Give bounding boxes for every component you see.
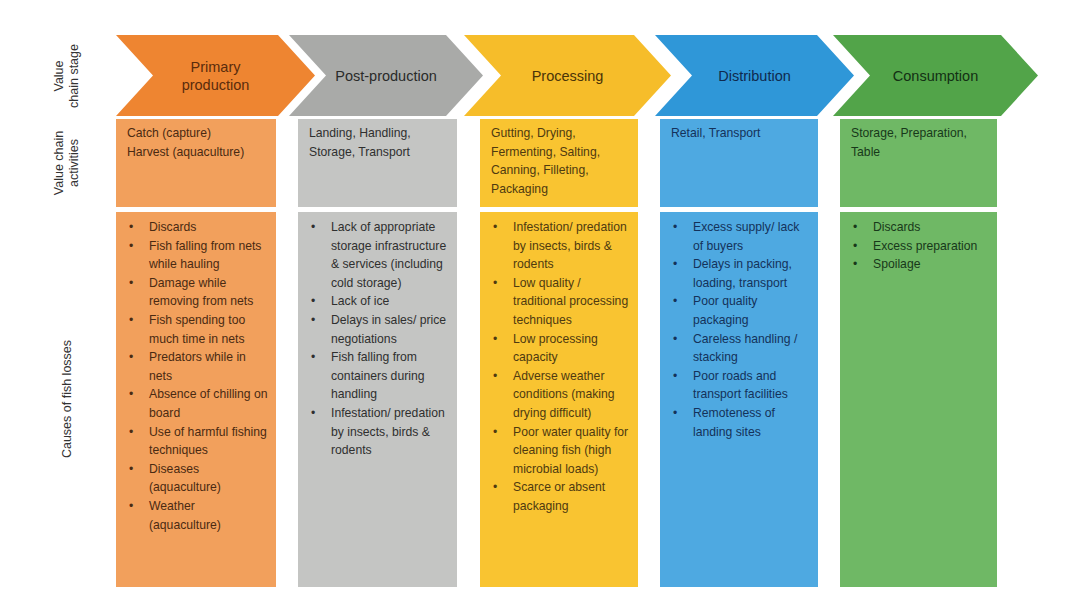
stage-chevron-consumption: Consumption — [833, 35, 1039, 116]
stage-title-line: Processing — [532, 67, 604, 85]
cause-item: Fish spending too much time in nets — [127, 311, 270, 348]
activities-primary-production: Catch (capture) Harvest (aquaculture) — [116, 119, 276, 207]
causes-primary-production: Discards Fish falling from nets while ha… — [116, 212, 276, 587]
causes-distribution: Excess supply/ lack of buyers Delays in … — [660, 212, 818, 587]
cause-item: Predators while in nets — [127, 348, 270, 385]
stage-chevron-primary-production: Primary production — [116, 35, 316, 116]
stage-chevron-distribution: Distribution — [655, 35, 855, 116]
activities-consumption: Storage, Preparation, Table — [840, 119, 997, 207]
stage-title-line: Primary — [182, 58, 250, 76]
cause-item: Absence of chilling on board — [127, 385, 270, 422]
causes-post-production: Lack of appropriate storage infrastructu… — [298, 212, 457, 587]
cause-item: Infestation/ predation by insects, birds… — [491, 218, 632, 274]
row-label-causes: Causes of fish losses — [60, 329, 76, 469]
causes-list: Discards Excess preparation Spoilage — [851, 218, 991, 274]
stage-title: Distribution — [692, 35, 817, 116]
cause-item: Lack of ice — [309, 292, 451, 311]
cause-item: Remoteness of landing sites — [671, 404, 812, 441]
causes-consumption: Discards Excess preparation Spoilage — [840, 212, 997, 587]
row-label-stage-line2: chain stage — [67, 41, 82, 111]
cause-item: Poor roads and transport facilities — [671, 367, 812, 404]
activity-text: Landing, Handling, Storage, Transport — [309, 124, 447, 161]
row-label-activities-line1: Value chain — [52, 123, 67, 203]
cause-item: Excess supply/ lack of buyers — [671, 218, 812, 255]
cause-item: Discards — [851, 218, 991, 237]
causes-list: Lack of appropriate storage infrastructu… — [309, 218, 451, 460]
cause-item: Careless handling / stacking — [671, 330, 812, 367]
cause-item: Delays in packing, loading, transport — [671, 255, 812, 292]
cause-item: Poor water quality for cleaning fish (hi… — [491, 423, 632, 479]
cause-item: Lack of appropriate storage infrastructu… — [309, 218, 451, 292]
cause-item: Spoilage — [851, 255, 991, 274]
cause-item: Low processing capacity — [491, 330, 632, 367]
stage-title: Post-production — [322, 35, 450, 116]
causes-list: Infestation/ predation by insects, birds… — [491, 218, 632, 516]
activity-text: Gutting, Drying, Fermenting, Salting, Ca… — [491, 124, 628, 198]
cause-item: Diseases (aquaculture) — [127, 460, 270, 497]
causes-list: Discards Fish falling from nets while ha… — [127, 218, 270, 534]
cause-item: Fish falling from nets while hauling — [127, 237, 270, 274]
activity-text: Storage, Preparation, Table — [851, 124, 987, 161]
row-label-stage: Value chain stage — [52, 41, 84, 111]
stage-title-line: production — [182, 76, 250, 94]
cause-item: Damage while removing from nets — [127, 274, 270, 311]
cause-item: Poor quality packaging — [671, 292, 812, 329]
cause-item: Low quality / traditional processing tec… — [491, 274, 632, 330]
row-label-activities-line2: activities — [67, 123, 82, 203]
activity-text: Catch (capture) — [127, 124, 266, 143]
stage-title-line: Consumption — [893, 67, 978, 85]
activities-processing: Gutting, Drying, Fermenting, Salting, Ca… — [480, 119, 638, 207]
stage-chevron-post-production: Post-production — [289, 35, 484, 116]
activities-distribution: Retail, Transport — [660, 119, 818, 207]
cause-item: Excess preparation — [851, 237, 991, 256]
activities-post-production: Landing, Handling, Storage, Transport — [298, 119, 457, 207]
stage-title: Processing — [501, 35, 634, 116]
cause-item: Delays in sales/ price negotiations — [309, 311, 451, 348]
cause-item: Adverse weather conditions (making dryin… — [491, 367, 632, 423]
cause-item: Use of harmful fishing techniques — [127, 423, 270, 460]
activity-text: Harvest (aquaculture) — [127, 143, 266, 162]
stage-title-line: Distribution — [718, 67, 791, 85]
cause-item: Scarce or absent packaging — [491, 478, 632, 515]
cause-item: Discards — [127, 218, 270, 237]
causes-processing: Infestation/ predation by insects, birds… — [480, 212, 638, 587]
cause-item: Infestation/ predation by insects, birds… — [309, 404, 451, 460]
stage-title-line: Post-production — [335, 67, 437, 85]
cause-item: Weather (aquaculture) — [127, 497, 270, 534]
activity-text: Retail, Transport — [671, 124, 808, 143]
row-label-activities: Value chain activities — [52, 123, 84, 203]
stage-title: Primary production — [153, 35, 278, 116]
stage-title: Consumption — [870, 35, 1001, 116]
cause-item: Fish falling from containers during hand… — [309, 348, 451, 404]
row-label-stage-line1: Value — [52, 41, 67, 111]
causes-list: Excess supply/ lack of buyers Delays in … — [671, 218, 812, 441]
stage-chevron-processing: Processing — [464, 35, 672, 116]
